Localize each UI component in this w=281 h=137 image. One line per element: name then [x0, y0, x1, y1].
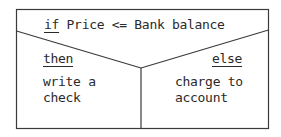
then-label: then: [43, 51, 73, 67]
else-action-line1: charge to: [175, 74, 243, 90]
else-action-line2: account: [175, 90, 228, 106]
decision-diagram: if Price <= Bank balance then else write…: [0, 0, 281, 137]
left-diagonal: [17, 31, 142, 68]
condition-expression: Price <= Bank balance: [59, 17, 225, 32]
if-keyword: if: [44, 17, 59, 32]
right-diagonal: [141, 30, 269, 68]
then-action-line2: check: [43, 90, 81, 106]
condition-text: if Price <= Bank balance: [44, 17, 225, 33]
else-label: else: [212, 51, 242, 67]
then-action-line1: write a: [43, 74, 96, 90]
